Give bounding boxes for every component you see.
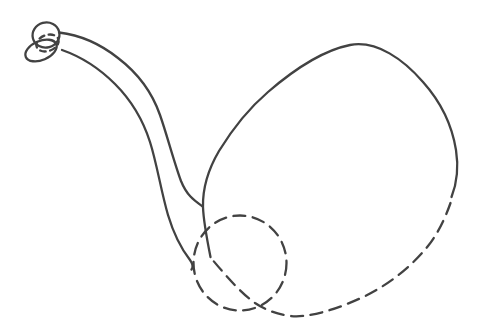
sketch-page (0, 0, 479, 330)
sketch-canvas (0, 0, 479, 330)
body-outline-solid (203, 44, 457, 257)
overlap-dashed-circle (194, 216, 287, 311)
body-outline-dashed-arc (214, 203, 451, 316)
